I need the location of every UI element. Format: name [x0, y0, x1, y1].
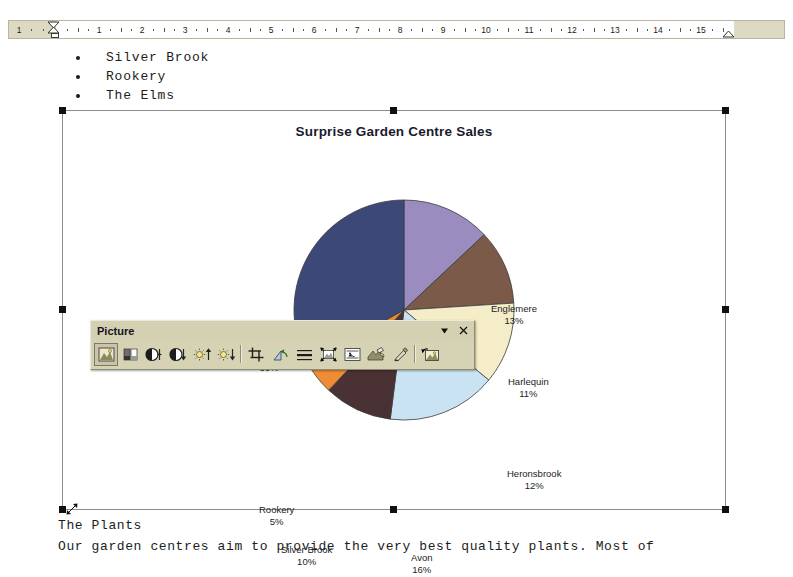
set-transparent-color-icon[interactable] — [388, 343, 412, 366]
ruler-number: 11 — [525, 24, 534, 36]
list-item[interactable]: Rookery — [90, 67, 209, 86]
pie-label-harlequin: Harlequin 11% — [508, 376, 549, 400]
list-item-label: Rookery — [106, 69, 166, 84]
less-contrast-icon[interactable] — [166, 343, 190, 366]
toolbar-options-chevron-icon[interactable] — [436, 323, 453, 339]
pie-label-englemere: Englemere 13% — [491, 303, 537, 327]
ruler-number: 2 — [140, 24, 145, 36]
bulleted-list: Silver Brook Rookery The Elms — [64, 48, 209, 105]
ruler-tick — [110, 29, 111, 31]
document-body-text: The Plants Our garden centres aim to pro… — [58, 515, 655, 557]
ruler-number: 1 — [17, 24, 22, 36]
ruler-tick — [88, 29, 89, 31]
pie-label-value: 16% — [411, 564, 432, 576]
ruler-number: 15 — [696, 24, 705, 36]
ruler-tick — [561, 29, 562, 31]
ruler-tick — [282, 29, 283, 31]
ruler-tick — [43, 29, 44, 31]
ruler-number: 12 — [567, 24, 576, 36]
resize-handle-top-center[interactable] — [390, 107, 397, 114]
ruler-tick — [540, 29, 541, 31]
list-item-label: Silver Brook — [106, 50, 209, 65]
ruler-number: 4 — [226, 24, 231, 36]
ruler-tick — [475, 29, 476, 31]
ruler-tick — [260, 29, 261, 31]
ruler-tick — [164, 28, 165, 32]
ruler-tick — [497, 29, 498, 31]
ruler-number: 9 — [441, 24, 446, 36]
resize-handle-bottom-right[interactable] — [722, 506, 729, 513]
ruler-tick — [31, 29, 32, 31]
ruler-tick — [411, 29, 412, 31]
ruler-number: 13 — [610, 24, 619, 36]
picture-toolbar[interactable]: Picture — [90, 320, 475, 370]
resize-handle-bottom-left[interactable] — [59, 506, 66, 513]
ruler-tick — [454, 29, 455, 31]
ruler-number: 1 — [97, 24, 102, 36]
pie-label-value: 11% — [508, 388, 549, 400]
more-contrast-icon[interactable] — [142, 343, 166, 366]
ruler-tick — [131, 29, 132, 31]
resize-handle-middle-left[interactable] — [59, 306, 66, 313]
more-brightness-icon[interactable] — [190, 343, 214, 366]
ruler-tick — [121, 28, 122, 32]
picture-toolbar-buttons — [91, 340, 474, 368]
ruler-number: 10 — [481, 24, 490, 36]
pie-chart[interactable]: Englemere 13% Harlequin 11% Heronsbrook … — [63, 111, 725, 509]
ruler-tick — [637, 28, 638, 32]
pie-label-name: Heronsbrook — [507, 468, 561, 480]
format-picture-icon[interactable] — [364, 343, 388, 366]
ruler-number: 5 — [269, 24, 274, 36]
toolbar-separator — [412, 344, 418, 364]
paragraph-body: Our garden centres aim to provide the ve… — [58, 536, 655, 557]
close-icon[interactable] — [455, 323, 472, 339]
pie-label-name: Harlequin — [508, 376, 549, 388]
ruler-tick — [583, 29, 584, 31]
ruler-tick — [336, 28, 337, 32]
embedded-chart-object[interactable]: Surprise Garden Centre Sales Englemere 1… — [62, 110, 726, 510]
ruler-tick — [508, 28, 509, 32]
ruler-tick — [551, 28, 552, 32]
list-item-label: The Elms — [106, 88, 175, 103]
resize-handle-top-right[interactable] — [722, 107, 729, 114]
text-wrapping-icon[interactable] — [340, 343, 364, 366]
ruler-tick — [422, 28, 423, 32]
ruler-tick — [647, 29, 648, 31]
resize-handle-bottom-center[interactable] — [390, 506, 397, 513]
ruler-number: 3 — [183, 24, 188, 36]
resize-handle-middle-right[interactable] — [722, 306, 729, 313]
reset-picture-icon[interactable] — [418, 343, 442, 366]
insert-picture-icon[interactable] — [94, 343, 118, 366]
list-item[interactable]: Silver Brook — [90, 48, 209, 67]
less-brightness-icon[interactable] — [214, 343, 238, 366]
ruler-tick — [303, 29, 304, 31]
pie-chart-svg[interactable] — [290, 196, 520, 428]
list-item[interactable]: The Elms — [90, 86, 209, 105]
ruler-tick — [78, 28, 79, 32]
ruler-tick — [346, 29, 347, 31]
ruler-tick — [174, 29, 175, 31]
ruler-tick — [153, 29, 154, 31]
image-control-icon[interactable] — [118, 343, 142, 366]
ruler-tick — [217, 29, 218, 31]
ruler-tick — [669, 29, 670, 31]
resize-handle-top-left[interactable] — [59, 107, 66, 114]
ruler-tick — [712, 29, 713, 31]
ruler-number: 7 — [355, 24, 360, 36]
ruler-number: 6 — [312, 24, 317, 36]
picture-toolbar-title: Picture — [97, 325, 134, 337]
pie-label-heronsbrook: Heronsbrook 12% — [507, 468, 561, 492]
compress-pictures-icon[interactable] — [316, 343, 340, 366]
rotate-left-icon[interactable] — [268, 343, 292, 366]
ruler-tick — [518, 29, 519, 31]
right-indent-marker[interactable] — [722, 30, 735, 38]
pie-label-value: 12% — [507, 480, 561, 492]
line-style-icon[interactable] — [292, 343, 316, 366]
crop-icon[interactable] — [244, 343, 268, 366]
ruler-tick — [325, 29, 326, 31]
ruler-tick — [680, 28, 681, 32]
left-indent-marker[interactable] — [51, 33, 59, 38]
picture-toolbar-titlebar[interactable]: Picture — [91, 321, 474, 340]
pie-label-name: Englemere — [491, 303, 537, 315]
horizontal-ruler[interactable]: 1123456789101112131415 — [8, 20, 785, 39]
